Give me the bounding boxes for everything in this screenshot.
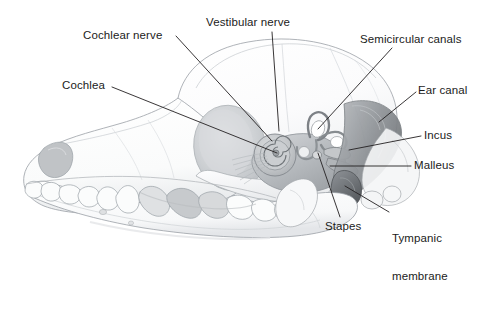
cochlea-structure — [254, 134, 296, 176]
label-tympanic-membrane-line1: Tympanic — [392, 232, 448, 245]
label-malleus: Malleus — [414, 159, 454, 172]
label-ear-canal: Ear canal — [418, 84, 467, 97]
label-semicircular-canals: Semicircular canals — [360, 33, 462, 46]
label-tympanic-membrane-line2: membrane — [392, 270, 448, 283]
label-cochlear-nerve: Cochlear nerve — [83, 29, 162, 42]
stapes-bone — [313, 151, 322, 159]
label-vestibular-nerve: Vestibular nerve — [206, 16, 290, 29]
label-incus: Incus — [424, 129, 452, 142]
label-tympanic-membrane: Tympanic membrane — [392, 207, 448, 307]
anatomy-figure: Cochlear nerve Vestibular nerve Semicirc… — [0, 0, 481, 310]
label-cochlea: Cochlea — [62, 79, 105, 92]
skull-group — [24, 39, 420, 239]
label-stapes: Stapes — [325, 220, 361, 233]
